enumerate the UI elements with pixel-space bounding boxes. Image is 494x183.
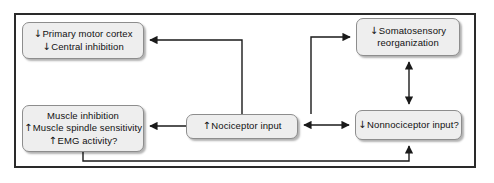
node-nonnociceptor-input[interactable]: ↓Nonnociceptor input? (355, 110, 462, 140)
up-arrow-icon: ↑ (24, 122, 33, 133)
node-line: reorganization (377, 37, 439, 50)
node-line-text: Muscle spindle sensitivity (33, 122, 142, 133)
node-line-text: Primary motor cortex (42, 28, 132, 39)
node-line: ↓Nonnociceptor input? (358, 119, 459, 132)
node-line: ↓Somatosensory (370, 25, 446, 38)
node-line-text: Nociceptor input (211, 120, 281, 131)
down-arrow-icon: ↓ (370, 25, 379, 36)
node-line: ↓Primary motor cortex (33, 28, 132, 41)
node-line: Muscle inhibition (47, 110, 119, 123)
node-line: ↑Muscle spindle sensitivity (24, 122, 142, 135)
node-line-text: Central inhibition (51, 41, 124, 52)
diagram-canvas: ↓Primary motor cortex ↓Central inhibitio… (0, 0, 494, 183)
connector-nociceptor-to-motor (150, 40, 242, 114)
node-line: ↑Nociceptor input (202, 120, 281, 133)
up-arrow-icon: ↑ (49, 135, 58, 146)
node-line: ↓Central inhibition (42, 41, 124, 54)
node-line-text: Somatosensory (379, 25, 446, 36)
node-somatosensory-reorganization[interactable]: ↓Somatosensory reorganization (356, 18, 460, 56)
node-line-text: Nonnociceptor input? (367, 119, 459, 130)
node-primary-motor-cortex[interactable]: ↓Primary motor cortex ↓Central inhibitio… (22, 22, 144, 59)
down-arrow-icon: ↓ (358, 119, 367, 130)
node-line-text: Muscle inhibition (47, 110, 119, 121)
node-line-text: EMG activity? (58, 135, 118, 146)
node-line-text: reorganization (377, 37, 439, 48)
connector-nociceptor-to-somatosensory (311, 37, 350, 114)
node-nociceptor-input[interactable]: ↑Nociceptor input (186, 114, 298, 139)
node-muscle-inhibition[interactable]: Muscle inhibition ↑Muscle spindle sensit… (22, 105, 144, 152)
down-arrow-icon: ↓ (42, 41, 51, 52)
up-arrow-icon: ↑ (202, 120, 211, 131)
node-line: ↑EMG activity? (49, 135, 118, 148)
